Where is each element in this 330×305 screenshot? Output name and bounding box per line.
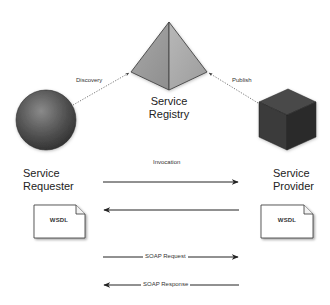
registry-label: Service Registry: [140, 95, 198, 120]
registry-label-line2: Registry: [140, 108, 198, 121]
discovery-label: Discovery: [76, 77, 102, 83]
provider-label-line2: Provider: [273, 180, 314, 193]
soap-response-label: SOAP Response: [141, 281, 190, 287]
cube-icon: [259, 89, 316, 150]
soap-request-label: SOAP Request: [143, 253, 188, 259]
registry-label-line1: Service: [140, 95, 198, 108]
invocation-label: Invocation: [153, 159, 180, 165]
requester-label-line1: Service: [23, 167, 74, 180]
provider-label-line1: Service: [273, 167, 314, 180]
provider-wsdl-label: WSDL: [262, 217, 312, 223]
requester-label-line2: Requester: [23, 180, 74, 193]
requester-wsdl-label: WSDL: [34, 217, 84, 223]
provider-label: Service Provider: [273, 167, 314, 192]
requester-label: Service Requester: [23, 167, 74, 192]
sphere-icon: [16, 90, 76, 150]
diagram-canvas: [0, 0, 330, 305]
publish-label: Publish: [232, 77, 252, 83]
pyramid-icon: [131, 22, 207, 90]
